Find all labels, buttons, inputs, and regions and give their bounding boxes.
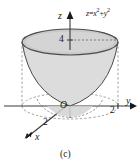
x-axis-label: x xyxy=(35,132,39,142)
y-axis-label: y xyxy=(126,96,130,106)
z-axis-label: z xyxy=(58,11,62,21)
y-axis-arrowhead xyxy=(130,103,137,110)
origin-label: O xyxy=(60,101,67,111)
z-axis-arrowhead xyxy=(67,11,74,19)
equation-term2-exponent: 2 xyxy=(107,7,110,13)
surface-equation-label: z=x2+y2 xyxy=(86,10,110,18)
figure-caption: (c) xyxy=(60,150,71,160)
y-axis-tick-label-2: 2 xyxy=(110,106,115,116)
figure-container: z y x 4 2 2 O z=x2+y2 (c) xyxy=(0,0,140,167)
x-axis-tick-label-2: 2 xyxy=(43,118,48,128)
paraboloid-diagram xyxy=(0,0,140,167)
z-axis-tick-label-4: 4 xyxy=(59,35,64,45)
